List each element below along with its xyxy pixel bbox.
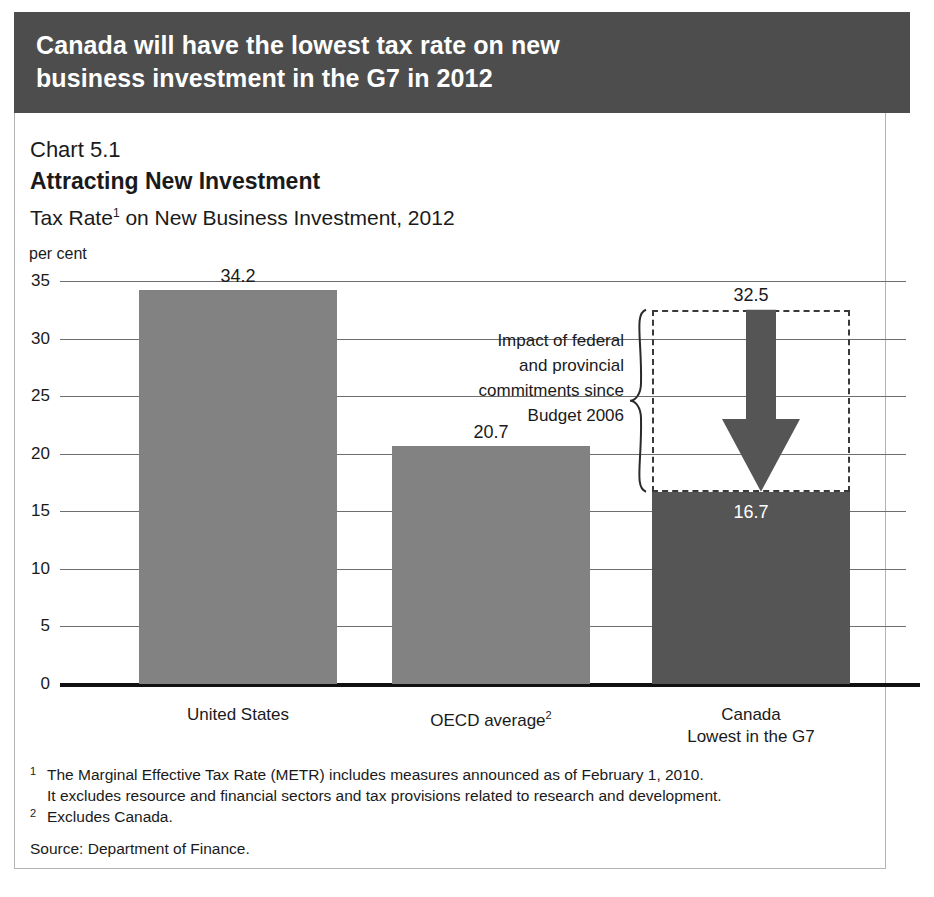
footnote-2-line1: Excludes Canada. xyxy=(47,806,880,827)
chart-subtitle-post: on New Business Investment, 2012 xyxy=(120,206,455,229)
footnote-2-marker: 2 xyxy=(30,803,36,824)
chart-title: Attracting New Investment xyxy=(30,167,320,195)
source-note: Source: Department of Finance. xyxy=(30,838,880,859)
header-title-line1: Canada will have the lowest tax rate on … xyxy=(36,29,888,62)
chart-page: Canada will have the lowest tax rate on … xyxy=(0,0,934,897)
footnote-1: 1 The Marginal Effective Tax Rate (METR)… xyxy=(30,764,880,806)
header-banner: Canada will have the lowest tax rate on … xyxy=(14,12,910,113)
header-title-line2: business investment in the G7 in 2012 xyxy=(36,62,888,95)
footnotes: 1 The Marginal Effective Tax Rate (METR)… xyxy=(30,764,880,859)
footnote-1-line1: The Marginal Effective Tax Rate (METR) i… xyxy=(47,764,880,785)
chart-subtitle: Tax Rate1 on New Business Investment, 20… xyxy=(30,200,455,231)
chart-number: Chart 5.1 xyxy=(30,137,121,163)
footnote-1-marker: 1 xyxy=(30,761,36,782)
footnote-1-line2: It excludes resource and financial secto… xyxy=(47,785,880,806)
footnote-2: 2 Excludes Canada. xyxy=(30,806,880,827)
y-axis-unit-label: per cent xyxy=(29,245,87,263)
chart-subtitle-footnote-marker: 1 xyxy=(113,206,120,220)
chart-subtitle-pre: Tax Rate xyxy=(30,206,113,229)
